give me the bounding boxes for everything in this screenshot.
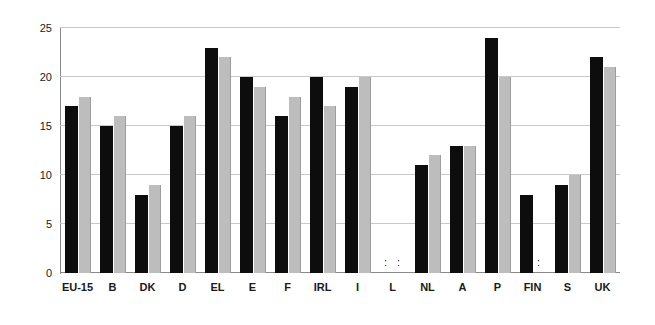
- bar-S-series-2: [568, 175, 581, 273]
- bar-FIN-series-1: [520, 195, 533, 273]
- x-tick-label-EL: EL: [210, 281, 224, 293]
- x-tick-label-NL: NL: [420, 281, 435, 293]
- bar-F-series-2: [288, 97, 301, 273]
- x-tick-label-DK: DK: [140, 281, 156, 293]
- bar-E-series-1: [240, 77, 253, 273]
- bar-I-series-1: [345, 87, 358, 273]
- bar-UK-series-2: [603, 67, 616, 273]
- bar-P-series-1: [485, 38, 498, 273]
- bar-IRL-series-1: [310, 77, 323, 273]
- x-tick-label-I: I: [356, 281, 359, 293]
- plot-area: :::: [60, 28, 620, 273]
- bar-F-series-1: [275, 116, 288, 273]
- x-tick-label-F: F: [284, 281, 291, 293]
- gridline-20: [60, 76, 620, 77]
- x-tick-label-E: E: [249, 281, 256, 293]
- bar-EU-15-series-2: [78, 97, 91, 273]
- x-tick-label-D: D: [179, 281, 187, 293]
- x-tick-label-FIN: FIN: [524, 281, 542, 293]
- x-tick-label-B: B: [109, 281, 117, 293]
- bar-DK-series-1: [135, 195, 148, 273]
- x-tick-label-IRL: IRL: [314, 281, 332, 293]
- y-tick-label-15: 15: [6, 120, 52, 132]
- bar-A-series-1: [450, 146, 463, 273]
- bar-DK-series-2: [148, 185, 161, 273]
- bar-A-series-2: [463, 146, 476, 273]
- gridline-25: [60, 27, 620, 28]
- bar-B-series-2: [113, 116, 126, 273]
- gridline-10: [60, 174, 620, 175]
- y-tick-label-5: 5: [6, 218, 52, 230]
- x-tick-label-UK: UK: [595, 281, 611, 293]
- y-axis-tick-labels: 0510152025: [0, 28, 52, 273]
- x-tick-label-L: L: [389, 281, 396, 293]
- gridline-15: [60, 125, 620, 126]
- x-tick-label-A: A: [459, 281, 467, 293]
- bar-UK-series-1: [590, 57, 603, 273]
- bar-D-series-2: [183, 116, 196, 273]
- bar-D-series-1: [170, 126, 183, 273]
- bar-I-series-2: [358, 77, 371, 273]
- no-data-marker-L: :: [384, 257, 387, 273]
- bar-NL-series-1: [415, 165, 428, 273]
- bar-IRL-series-2: [323, 106, 336, 273]
- no-data-marker-FIN: :: [537, 257, 540, 273]
- bar-chart: 0510152025 ::: EU-15BDKDELEFIRLILNLAPFIN…: [0, 0, 655, 325]
- x-tick-label-P: P: [494, 281, 501, 293]
- x-axis-tick-labels: EU-15BDKDELEFIRLILNLAPFINSUK: [60, 281, 620, 305]
- x-tick-label-S: S: [564, 281, 571, 293]
- bar-B-series-1: [100, 126, 113, 273]
- y-tick-label-0: 0: [6, 267, 52, 279]
- bar-E-series-2: [253, 87, 266, 273]
- bar-P-series-2: [498, 77, 511, 273]
- no-data-marker-L: :: [397, 257, 400, 273]
- y-tick-label-25: 25: [6, 22, 52, 34]
- y-tick-label-10: 10: [6, 169, 52, 181]
- bar-S-series-1: [555, 185, 568, 273]
- x-tick-label-EU-15: EU-15: [62, 281, 93, 293]
- y-tick-label-20: 20: [6, 71, 52, 83]
- bar-EL-series-1: [205, 48, 218, 273]
- bar-EU-15-series-1: [65, 106, 78, 273]
- bar-NL-series-2: [428, 155, 441, 273]
- bar-EL-series-2: [218, 57, 231, 273]
